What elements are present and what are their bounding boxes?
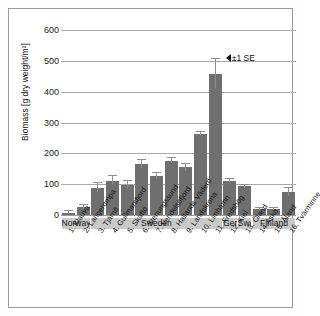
- y-tick-label-100: 100: [44, 180, 59, 189]
- error-bar-cap: [225, 178, 234, 179]
- y-tick-label-400: 400: [44, 88, 59, 97]
- y-tick-label-600: 600: [44, 26, 59, 35]
- error-bar: [288, 188, 289, 197]
- error-bar-cap: [64, 210, 73, 211]
- figure: 0100200300400500600 Biomass [g dry weigh…: [0, 0, 301, 316]
- error-bar-cap: [123, 180, 132, 181]
- y-tick-label-200: 200: [44, 149, 59, 158]
- bar-group: [282, 31, 295, 216]
- error-bar: [68, 211, 69, 214]
- y-axis-title: Biomass [g dry weight/m²]: [20, 32, 30, 152]
- figure-frame: 0100200300400500600 Biomass [g dry weigh…: [8, 8, 293, 308]
- error-bar: [141, 160, 142, 168]
- error-bar: [244, 185, 245, 188]
- error-bar: [229, 179, 230, 183]
- error-bar: [200, 132, 201, 136]
- error-bar-cap: [108, 175, 117, 176]
- error-bar-cap: [152, 172, 161, 173]
- error-bar: [185, 164, 186, 171]
- error-bar-cap: [137, 159, 146, 160]
- error-bar-cap: [167, 157, 176, 158]
- error-bar: [171, 158, 172, 163]
- bar-group: [209, 31, 222, 216]
- left-triangle-icon: [226, 54, 231, 62]
- bar-group: [62, 31, 75, 216]
- error-bar-cap: [211, 58, 220, 59]
- y-tick-label-0: 0: [54, 211, 59, 220]
- error-bar-cap: [93, 182, 102, 183]
- error-bar: [97, 183, 98, 192]
- bar-group: [150, 31, 163, 216]
- error-bar: [156, 173, 157, 180]
- y-axis-tick-labels: 0100200300400500600: [29, 31, 59, 216]
- bar-group: [91, 31, 104, 216]
- error-bar-cap: [196, 131, 205, 132]
- x-axis-category-labels: 1. Klauva2. Langerompa3. Tjärnö4. Gullma…: [61, 230, 301, 310]
- error-bar-cap: [284, 187, 293, 188]
- error-bar: [127, 181, 128, 190]
- error-bar-cap: [240, 184, 249, 185]
- se-annotation: ±1 SE: [226, 53, 255, 63]
- error-bar: [215, 59, 216, 87]
- error-bar: [112, 176, 113, 186]
- error-bar-cap: [181, 163, 190, 164]
- bar-group: [77, 31, 90, 216]
- bar-group: [121, 31, 134, 216]
- bar-group: [267, 31, 280, 216]
- y-tick-label-300: 300: [44, 119, 59, 128]
- se-annotation-label: ±1 SE: [232, 53, 255, 63]
- y-tick-label-500: 500: [44, 57, 59, 66]
